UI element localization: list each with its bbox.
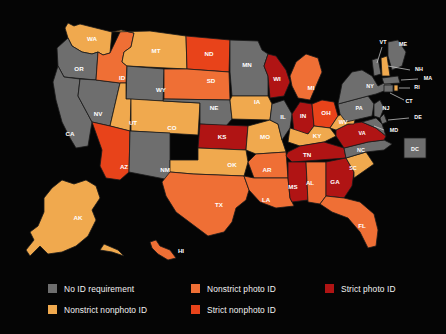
state-label-ME: ME — [399, 41, 407, 47]
state-HI[interactable] — [150, 240, 176, 260]
state-MA[interactable] — [382, 76, 400, 84]
state-VT[interactable] — [372, 58, 381, 76]
state-label-AK: AK — [74, 214, 83, 221]
state-label-ID: ID — [119, 74, 126, 81]
state-label-VA: VA — [358, 130, 365, 136]
state-label-MS: MS — [288, 183, 297, 190]
state-label-RI: RI — [414, 84, 420, 90]
state-label-CT: CT — [405, 98, 413, 104]
state-TN[interactable] — [286, 142, 346, 162]
legend-item-no-id[interactable]: No ID requirement — [48, 278, 147, 299]
state-label-OK: OK — [227, 161, 237, 168]
state-label-ND: ND — [205, 50, 214, 57]
leader-line-CT — [390, 93, 404, 100]
leader-line-MA — [401, 79, 418, 80]
legend-item-nonstrict-photo[interactable]: Nonstrict photo ID — [191, 278, 276, 299]
state-label-MN: MN — [242, 61, 252, 68]
state-label-GA: GA — [330, 178, 340, 185]
voter-id-map-figure: WA OR CA NV ID MT WY UT CO AZ NM ND SD N… — [0, 0, 446, 334]
state-RI[interactable] — [394, 85, 398, 91]
state-label-AL: AL — [306, 179, 314, 186]
state-label-OR: OR — [74, 65, 84, 72]
state-label-MA: MA — [424, 75, 432, 81]
state-label-TN: TN — [303, 151, 312, 158]
legend-swatch-no-id — [48, 284, 57, 293]
state-label-PA: PA — [355, 105, 362, 111]
state-label-NH: NH — [415, 66, 423, 72]
state-label-NV: NV — [94, 110, 103, 117]
state-TX[interactable] — [162, 172, 249, 236]
state-LA[interactable] — [244, 176, 294, 208]
state-label-WI: WI — [273, 75, 281, 82]
legend-column-2: Nonstrict photo ID Strict nonphoto ID — [191, 278, 276, 320]
legend-swatch-strict-nonphoto — [191, 305, 200, 314]
state-label-WV: WV — [339, 119, 348, 125]
legend-item-strict-photo[interactable]: Strict photo ID — [325, 278, 396, 299]
state-MI[interactable] — [290, 54, 322, 100]
state-label-LA: LA — [262, 196, 271, 203]
state-label-KS: KS — [218, 133, 227, 140]
state-label-CA: CA — [66, 130, 75, 137]
state-FL[interactable] — [320, 196, 378, 248]
legend-item-nonstrict-nonphoto[interactable]: Nonstrict nonphoto ID — [48, 299, 147, 320]
legend-column-1: No ID requirement Nonstrict nonphoto ID — [48, 278, 147, 320]
state-IA[interactable] — [230, 96, 272, 120]
state-label-OH: OH — [321, 109, 331, 116]
state-label-MI: MI — [308, 84, 315, 91]
legend-swatch-nonstrict-photo — [191, 284, 200, 293]
state-label-AZ: AZ — [120, 163, 128, 170]
state-label-NJ: NJ — [383, 105, 390, 111]
state-label-MD: MD — [390, 127, 398, 133]
state-label-AR: AR — [263, 166, 272, 173]
state-label-WA: WA — [87, 35, 97, 42]
state-label-TX: TX — [215, 201, 224, 208]
state-CO[interactable] — [131, 99, 200, 135]
legend-column-3: Strict photo ID — [325, 278, 396, 299]
state-WY[interactable] — [126, 66, 164, 101]
state-SD[interactable] — [164, 69, 230, 100]
state-label-DE: DE — [414, 114, 422, 120]
legend-item-strict-nonphoto[interactable]: Strict nonphoto ID — [191, 299, 276, 320]
state-label-NE: NE — [210, 104, 219, 111]
state-label-VT: VT — [380, 39, 388, 45]
legend-label-strict-photo: Strict photo ID — [341, 284, 396, 294]
state-AR[interactable] — [248, 152, 288, 178]
legend-label-strict-nonphoto: Strict nonphoto ID — [207, 305, 276, 315]
state-label-NY: NY — [366, 83, 374, 89]
state-label-SD: SD — [207, 77, 216, 84]
state-label-NM: NM — [160, 166, 170, 173]
legend-label-nonstrict-nonphoto: Nonstrict nonphoto ID — [64, 305, 147, 315]
state-AK-islands[interactable] — [100, 244, 124, 256]
state-AK[interactable] — [26, 180, 100, 256]
legend-label-nonstrict-photo: Nonstrict photo ID — [207, 284, 276, 294]
state-AZ[interactable] — [92, 122, 130, 180]
state-MN[interactable] — [230, 40, 268, 96]
state-label-UT: UT — [129, 119, 137, 126]
us-map-svg: WA OR CA NV ID MT WY UT CO AZ NM ND SD N… — [0, 0, 446, 278]
state-label-WY: WY — [156, 86, 167, 93]
state-CT[interactable] — [384, 85, 393, 92]
state-label-DC: DC — [411, 146, 419, 152]
legend-label-no-id: No ID requirement — [64, 284, 134, 294]
state-label-CO: CO — [167, 124, 176, 131]
state-label-IA: IA — [254, 98, 261, 105]
map-legend: No ID requirement Nonstrict nonphoto ID … — [0, 278, 446, 334]
legend-swatch-strict-photo — [325, 284, 334, 293]
legend-swatch-nonstrict-nonphoto — [48, 305, 57, 314]
state-label-MT: MT — [152, 47, 161, 54]
state-label-SC: SC — [349, 165, 357, 171]
state-label-FL: FL — [358, 222, 366, 229]
state-label-KY: KY — [313, 132, 322, 139]
state-label-IL: IL — [280, 113, 286, 120]
state-label-HI: HI — [178, 247, 184, 254]
us-choropleth-map: WA OR CA NV ID MT WY UT CO AZ NM ND SD N… — [0, 0, 446, 278]
state-label-MO: MO — [260, 133, 270, 140]
state-label-IN: IN — [300, 112, 307, 119]
leader-line-DE — [388, 118, 409, 120]
state-label-NC: NC — [357, 147, 365, 153]
